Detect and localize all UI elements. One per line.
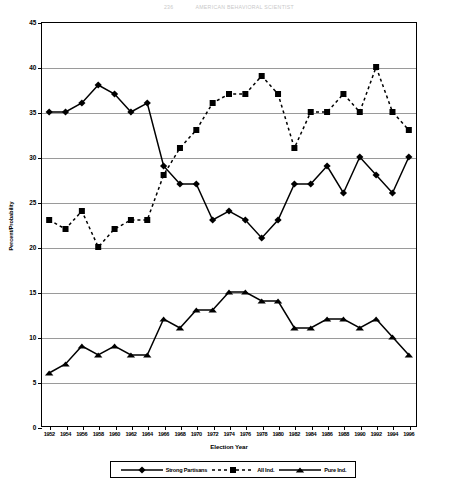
data-point-marker (78, 344, 86, 349)
legend-marker-square-icon (211, 465, 255, 475)
data-point-marker (161, 172, 167, 178)
data-point-marker (62, 108, 69, 115)
series-strong-partisans (46, 81, 413, 241)
data-point-marker (340, 189, 347, 196)
data-point-marker (259, 73, 265, 79)
data-point-marker (209, 216, 216, 223)
data-point-marker (112, 226, 118, 232)
series-layer (41, 22, 417, 427)
data-point-marker (46, 217, 52, 223)
legend-label: All Ind. (257, 467, 274, 473)
chart-page: 236 AMERICAN BEHAVIORAL SCIENTIST Percen… (0, 0, 458, 489)
y-axis-tick-label: 45 (12, 19, 36, 26)
legend-item[interactable]: Pure Ind. (278, 465, 346, 475)
data-point-marker (308, 109, 314, 115)
x-axis-tick-label: 1996 (397, 431, 421, 437)
data-point-marker (275, 91, 281, 97)
data-point-marker (242, 91, 248, 97)
x-axis-title: Election Year (0, 443, 458, 450)
data-point-marker (61, 362, 69, 367)
data-point-marker (46, 108, 53, 115)
legend-item[interactable]: Strong Partisans (120, 465, 208, 475)
y-axis-tick-label: 40 (12, 64, 36, 71)
data-point-marker (144, 99, 151, 106)
data-point-marker (291, 145, 297, 151)
running-head: 236 AMERICAN BEHAVIORAL SCIENTIST (0, 0, 458, 10)
data-point-marker (372, 317, 380, 322)
data-point-marker (388, 335, 396, 340)
y-axis-tick-label: 10 (12, 334, 36, 341)
data-point-marker (340, 91, 346, 97)
y-axis-tick-label: 15 (12, 289, 36, 296)
data-point-marker (159, 317, 167, 322)
data-point-marker (226, 91, 232, 97)
running-head-title: AMERICAN BEHAVIORAL SCIENTIST (195, 4, 294, 10)
data-point-marker (193, 127, 199, 133)
y-axis-tick-label: 30 (12, 154, 36, 161)
data-point-marker (406, 127, 412, 133)
data-point-marker (177, 145, 183, 151)
data-point-marker (193, 180, 200, 187)
data-point-marker (210, 100, 216, 106)
legend-item[interactable]: All Ind. (211, 465, 274, 475)
series-line (49, 85, 409, 238)
y-axis-tick-label: 0 (12, 424, 36, 431)
legend-label: Strong Partisans (166, 467, 208, 473)
series-pure-ind (45, 290, 413, 376)
legend-label: Pure Ind. (324, 467, 346, 473)
data-point-marker (291, 180, 298, 187)
data-point-marker (110, 344, 118, 349)
data-point-marker (95, 244, 101, 250)
data-point-marker (405, 153, 412, 160)
data-point-marker (357, 109, 363, 115)
data-point-marker (128, 217, 134, 223)
data-point-marker (144, 217, 150, 223)
data-point-marker (63, 226, 69, 232)
data-point-marker (373, 64, 379, 70)
series-line (49, 292, 409, 373)
y-axis-tick-label: 20 (12, 244, 36, 251)
y-axis-tick-label: 35 (12, 109, 36, 116)
running-head-page-number: 236 (164, 4, 174, 10)
legend-marker-triangle-icon (278, 465, 322, 475)
y-axis-tick-label: 5 (12, 379, 36, 386)
y-axis-tick-label: 25 (12, 199, 36, 206)
data-point-marker (405, 353, 413, 358)
chart-legend: Strong PartisansAll Ind.Pure Ind. (110, 461, 356, 478)
data-point-marker (324, 109, 330, 115)
data-point-marker (389, 109, 395, 115)
y-axis-tick-mark (38, 428, 42, 429)
data-point-marker (225, 207, 232, 214)
legend-marker-diamond-icon (120, 465, 164, 475)
data-point-marker (79, 208, 85, 214)
